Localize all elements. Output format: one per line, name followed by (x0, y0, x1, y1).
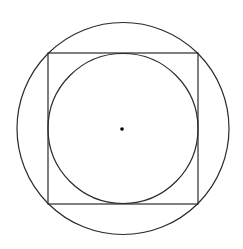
geometry-diagram (0, 0, 243, 249)
background (0, 0, 243, 249)
center-point (120, 127, 124, 131)
